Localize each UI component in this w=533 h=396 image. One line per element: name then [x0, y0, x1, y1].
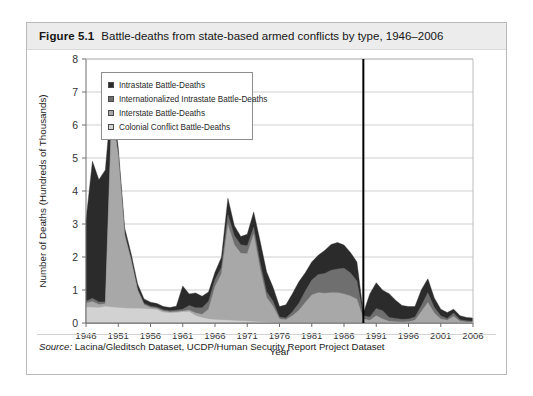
y-tick-label: 0 [72, 317, 78, 329]
area-series-interstate [86, 111, 473, 323]
source-text: Lacina/Gleditsch Dataset, UCDP/Human Sec… [72, 341, 384, 352]
area-series-internationalized [86, 109, 473, 323]
legend-item[interactable]: Internationalized Intrastate Battle-Deat… [108, 92, 244, 106]
source-label: Source: [39, 341, 72, 352]
x-tick-label: 1961 [172, 330, 193, 341]
x-tick-label: 1966 [204, 330, 225, 341]
y-tick-label: 1 [72, 284, 78, 296]
legend-swatch-icon [108, 110, 114, 116]
chart-plot-area: 0123456781946195119561961196619711976198… [27, 50, 506, 374]
y-axis-title: Number of Deaths (Hundreds of Thousands) [37, 94, 48, 287]
legend-label: Colonial Conflict Battle-Deaths [119, 123, 230, 132]
y-tick-label: 3 [72, 218, 78, 230]
x-tick-label: 1971 [237, 330, 258, 341]
legend-item[interactable]: Colonial Conflict Battle-Deaths [108, 120, 244, 134]
figure-card: Figure 5.1 Battle-deaths from state-base… [26, 22, 507, 375]
legend-swatch-icon [108, 96, 114, 102]
y-tick-label: 8 [72, 53, 78, 65]
x-tick-label: 1986 [333, 330, 354, 341]
chart-legend: Intrastate Battle-DeathsInternationalize… [101, 72, 253, 140]
y-tick-label: 6 [72, 119, 78, 131]
figure-number: Figure 5.1 [39, 30, 94, 42]
legend-label: Intrastate Battle-Deaths [119, 81, 205, 90]
footer-divider [37, 334, 496, 335]
legend-swatch-icon [108, 82, 114, 88]
x-tick-label: 1976 [269, 330, 290, 341]
y-tick-label: 5 [72, 152, 78, 164]
x-tick-label: 1981 [301, 330, 322, 341]
source-note: Source: Lacina/Gleditsch Dataset, UCDP/H… [39, 341, 385, 352]
x-tick-label: 2006 [462, 330, 483, 341]
figure-title-bar: Figure 5.1 Battle-deaths from state-base… [27, 23, 506, 50]
x-tick-label: 1991 [366, 330, 387, 341]
x-tick-label: 1956 [140, 330, 161, 341]
x-tick-label: 1946 [75, 330, 96, 341]
legend-label: Internationalized Intrastate Battle-Deat… [119, 95, 267, 104]
x-tick-label: 1951 [108, 330, 129, 341]
legend-swatch-icon [108, 124, 114, 130]
y-tick-label: 2 [72, 251, 78, 263]
y-tick-label: 7 [72, 86, 78, 98]
x-tick-label: 2001 [430, 330, 451, 341]
legend-item[interactable]: Interstate Battle-Deaths [108, 106, 244, 120]
x-tick-label: 1996 [398, 330, 419, 341]
legend-label: Interstate Battle-Deaths [119, 109, 205, 118]
figure-title: Battle-deaths from state-based armed con… [101, 30, 443, 42]
legend-item[interactable]: Intrastate Battle-Deaths [108, 78, 244, 92]
y-tick-label: 4 [72, 185, 78, 197]
